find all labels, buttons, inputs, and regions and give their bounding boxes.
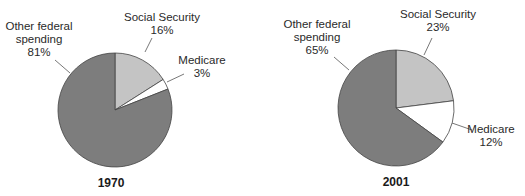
label-ss-value-1970: 16% [150,24,173,36]
chart-title-1970: 1970 [98,176,125,190]
label-other-name2-2001: spending [294,31,341,43]
label-other-name2-1970: spending [16,33,63,45]
pie-chart-2001 [338,50,454,166]
leader-line-other-2001 [334,57,349,70]
label-medicare-value-1970: 3% [194,67,211,79]
leader-line-medicare-1970 [167,74,184,82]
leader-line-ss-2001 [424,38,432,55]
label-other-name1-2001: Other federal [283,18,350,30]
label-ss-name-2001: Social Security [400,8,476,20]
pie-charts: Social Security 16% Medicare 3% Other fe… [0,0,525,196]
pie-slice-social-security [396,50,454,108]
leader-line-other-1970 [55,60,70,73]
label-medicare-name-1970: Medicare [178,54,225,66]
label-other-value-2001: 65% [305,44,328,56]
chart-title-2001: 2001 [383,175,410,189]
leader-line-ss-1970 [145,38,152,52]
label-medicare-value-2001: 12% [479,136,502,148]
label-other-value-1970: 81% [27,46,50,58]
label-ss-value-2001: 23% [426,21,449,33]
label-ss-name-1970: Social Security [124,11,200,23]
pie-chart-1970 [58,53,172,167]
label-other-name1-1970: Other federal [5,20,72,32]
label-medicare-name-2001: Medicare [467,123,514,135]
